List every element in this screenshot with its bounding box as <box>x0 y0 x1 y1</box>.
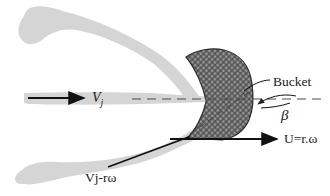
pelton-bucket-jet-diagram: Vj Bucket β U=r.ω Vj-rω <box>0 0 330 196</box>
diagram-canvas: Vj Bucket β U=r.ω Vj-rω <box>0 0 330 196</box>
bucket-label: Bucket <box>273 74 311 89</box>
relative-velocity-label: Vj-rω <box>85 170 116 185</box>
bucket-speed-label: U=r.ω <box>284 131 317 146</box>
beta-label: β <box>280 107 289 123</box>
